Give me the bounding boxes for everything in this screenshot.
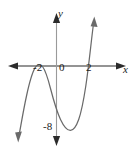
y-axis-label: y: [58, 8, 63, 19]
origin-label: 0: [59, 62, 65, 73]
x-axis: [8, 62, 126, 69]
x-tick-label-negative-2: -2: [33, 62, 42, 73]
x-tick-label-positive-2: 2: [86, 62, 92, 73]
y-tick-label-negative-8: -8: [43, 121, 52, 132]
cubic-graph-plot: [0, 0, 135, 153]
curve-upper-right-arrowhead: [91, 17, 98, 28]
x-axis-left-arrowhead: [8, 62, 18, 69]
curve-lower-left-arrowhead: [15, 132, 22, 143]
x-axis-label: x: [123, 64, 128, 75]
y-axis-bottom-arrowhead: [53, 136, 60, 146]
y-axis: [53, 13, 60, 146]
graph-figure: y x 0 -2 2 -8: [0, 0, 135, 153]
